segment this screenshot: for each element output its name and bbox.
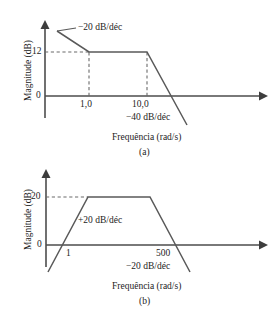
y-tick-label-0-b: 0 — [37, 240, 42, 250]
x-axis-arrow-a — [259, 92, 268, 101]
y-tick-label-0-a: 0 — [36, 91, 41, 101]
y-axis-arrow-a — [41, 20, 50, 29]
y-axis-arrow-b — [42, 169, 51, 178]
x-axis-title-a: Frequência (rad/s) — [112, 133, 181, 143]
slope-annotation-minus20-b: −20 dB/déc — [126, 262, 170, 272]
y-tick-label-20-b: 20 — [31, 192, 41, 202]
slope-annotation-plus20-b: +20 dB/déc — [78, 216, 122, 226]
x-tick-label-1-a: 1,0 — [80, 100, 92, 110]
x-axis-title-b: Frequência (rad/s) — [112, 282, 181, 292]
slope-annotation-minus20-a: −20 dB/déc — [78, 23, 122, 33]
bode-plot-b: Magnitude (dB) 20 0 1 500 +20 dB/déc −20… — [0, 155, 280, 314]
slope-annotation-minus40-a: −40 dB/déc — [126, 113, 170, 123]
bode-plot-a: Magnitude (dB) 12 0 1,0 10,0 −20 dB/déc … — [0, 0, 280, 160]
slope-leader-line-a — [57, 28, 76, 31]
x-tick-label-10-a: 10,0 — [132, 100, 149, 110]
panel-label-b: (b) — [139, 297, 150, 307]
x-tick-label-500-b: 500 — [156, 249, 170, 259]
x-tick-label-1-b: 1 — [66, 249, 71, 259]
x-axis-arrow-b — [259, 241, 268, 250]
y-tick-label-12-a: 12 — [32, 47, 42, 57]
magnitude-curve-a — [57, 31, 187, 125]
figure-sheet: Magnitude (dB) 12 0 1,0 10,0 −20 dB/déc … — [0, 0, 280, 314]
